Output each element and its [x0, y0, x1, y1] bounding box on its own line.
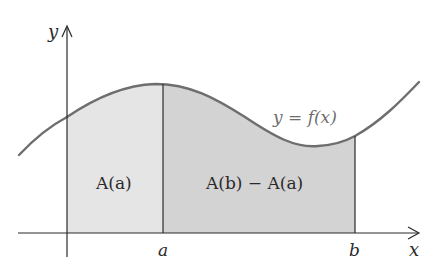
region-a-area	[67, 84, 163, 233]
region-a-label: A(a)	[95, 173, 132, 193]
curve-label: y = f(x)	[272, 107, 337, 127]
region-difference-label: A(b) − A(a)	[205, 173, 303, 193]
marker-a-label: a	[158, 240, 168, 260]
x-axis-label-real: x	[409, 239, 419, 260]
marker-b-label: b	[349, 240, 360, 260]
area-function-diagram: y x x x x x x x a b y = f(x) A(a) A(b) −…	[0, 0, 439, 266]
y-axis-label: y	[47, 21, 59, 42]
